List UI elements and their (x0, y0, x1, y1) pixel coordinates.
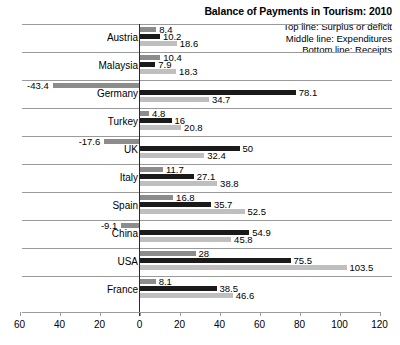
row-separator (22, 220, 392, 221)
chart-row: Germany-43.478.134.7 (0, 80, 400, 108)
row-separator (22, 24, 392, 25)
value-label-expenditures: 78.1 (299, 87, 318, 98)
value-label-receipts: 18.3 (179, 66, 198, 77)
bar-surplus (140, 279, 156, 284)
x-axis-tick (20, 312, 21, 316)
x-axis: 604020020406080100120 (0, 312, 400, 345)
bar-surplus (140, 195, 174, 200)
chart-row: China-9.154.945.8 (0, 220, 400, 248)
bar-expenditures (140, 202, 211, 207)
row-separator (22, 276, 392, 277)
tourism-balance-chart: Balance of Payments in Tourism: 2010 Top… (0, 0, 400, 345)
value-label-receipts: 34.7 (212, 94, 231, 105)
value-label-receipts: 18.6 (180, 38, 199, 49)
chart-row: Austria8.410.218.6 (0, 24, 400, 52)
country-label: France (107, 284, 138, 295)
value-label-surplus: -43.4 (27, 80, 49, 91)
bar-surplus (140, 111, 150, 116)
row-separator (22, 192, 392, 193)
x-axis-tick-label: 0 (137, 319, 143, 330)
value-label-expenditures: 50 (243, 143, 254, 154)
x-axis-tick-label: 40 (214, 319, 225, 330)
bar-receipts (140, 69, 177, 74)
x-axis-line (22, 312, 380, 313)
value-label-surplus: -9.1 (101, 220, 117, 231)
x-axis-tick-label: 20 (174, 319, 185, 330)
bar-surplus (53, 83, 140, 88)
country-label: Malaysia (99, 60, 138, 71)
x-axis-tick-label: 80 (294, 319, 305, 330)
value-label-receipts: 32.4 (207, 150, 226, 161)
x-axis-tick (60, 312, 61, 316)
value-label-surplus: -17.6 (79, 136, 101, 147)
row-separator (22, 108, 392, 109)
row-separator (22, 80, 392, 81)
country-label: Austria (107, 32, 138, 43)
bar-expenditures (140, 258, 291, 263)
x-axis-tick-label: 60 (254, 319, 265, 330)
country-label: USA (117, 256, 138, 267)
value-label-receipts: 38.8 (220, 178, 239, 189)
x-axis-tick (220, 312, 221, 316)
value-label-receipts: 45.8 (234, 234, 253, 245)
x-axis-tick-label: 20 (94, 319, 105, 330)
row-separator (22, 52, 392, 53)
chart-row: Malaysia10.47.918.3 (0, 52, 400, 80)
x-axis-tick (100, 312, 101, 316)
bar-expenditures (140, 62, 156, 67)
country-label: Spain (112, 200, 138, 211)
x-axis-tick (300, 312, 301, 316)
bar-expenditures (140, 118, 172, 123)
country-label: UK (124, 144, 138, 155)
x-axis-tick-label: 100 (331, 319, 348, 330)
bar-receipts (140, 97, 209, 102)
chart-row: Spain16.835.752.5 (0, 192, 400, 220)
value-label-receipts: 46.6 (236, 290, 255, 301)
value-label-expenditures: 54.9 (252, 227, 271, 238)
bar-expenditures (140, 34, 160, 39)
chart-row: Turkey4.81620.8 (0, 108, 400, 136)
x-axis-tick (340, 312, 341, 316)
zero-axis-line (139, 24, 140, 316)
plot-area: Austria8.410.218.6Malaysia10.47.918.3Ger… (0, 24, 400, 312)
bar-receipts (140, 41, 177, 46)
value-label-receipts: 52.5 (248, 206, 267, 217)
x-axis-tick-label: 120 (371, 319, 388, 330)
x-axis-tick (260, 312, 261, 316)
bar-expenditures (140, 174, 194, 179)
chart-row: USA2875.5103.5 (0, 248, 400, 276)
country-label: Germany (97, 88, 138, 99)
bar-receipts (140, 209, 245, 214)
country-label: Turkey (108, 116, 138, 127)
row-separator (22, 136, 392, 137)
x-axis-tick (140, 312, 141, 316)
value-label-receipts: 103.5 (350, 262, 374, 273)
chart-row: UK-17.65032.4 (0, 136, 400, 164)
x-axis-tick (380, 312, 381, 316)
bar-receipts (140, 125, 182, 130)
bar-surplus (104, 139, 139, 144)
x-axis-tick-label: 60 (14, 319, 25, 330)
country-label: Italy (120, 172, 138, 183)
row-separator (22, 164, 392, 165)
chart-row: France8.138.546.6 (0, 276, 400, 304)
bar-surplus (121, 223, 139, 228)
value-label-receipts: 20.8 (184, 122, 203, 133)
x-axis-tick (180, 312, 181, 316)
bar-receipts (140, 293, 233, 298)
bar-receipts (140, 153, 205, 158)
bar-surplus (140, 167, 163, 172)
bar-expenditures (140, 286, 217, 291)
bar-receipts (140, 265, 347, 270)
bar-surplus (140, 55, 161, 60)
chart-title: Balance of Payments in Tourism: 2010 (204, 5, 392, 17)
bar-surplus (140, 27, 157, 32)
x-axis-tick-label: 40 (54, 319, 65, 330)
bar-surplus (140, 251, 196, 256)
chart-row: Italy11.727.138.8 (0, 164, 400, 192)
bar-expenditures (140, 230, 250, 235)
bar-receipts (140, 181, 218, 186)
bar-receipts (140, 237, 232, 242)
